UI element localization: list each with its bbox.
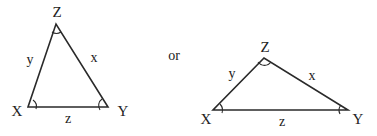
triangle-left-outline (28, 24, 108, 107)
vertex-label-z: Z (52, 4, 61, 20)
vertex-label-y: Y (118, 103, 129, 119)
angle-arc-y (99, 99, 102, 110)
side-label-y: y (229, 66, 236, 81)
side-label-z: z (279, 114, 285, 129)
triangle-diagram: Z X Y y x z or Z X Y y x z (0, 0, 377, 136)
vertex-label-x: X (12, 103, 23, 119)
side-label-y: y (27, 52, 34, 67)
side-label-x: x (309, 68, 316, 83)
vertex-label-z: Z (260, 39, 269, 55)
vertex-label-y: Y (353, 111, 364, 127)
triangle-right: Z X Y y x z (201, 39, 364, 129)
vertex-label-x: X (201, 111, 212, 127)
side-label-z: z (65, 111, 71, 126)
angle-arc-x (220, 104, 222, 113)
connector-text: or (168, 48, 180, 63)
triangle-left: Z X Y y x z (12, 4, 129, 126)
side-label-x: x (91, 50, 98, 65)
angle-arc-z (52, 32, 61, 33)
